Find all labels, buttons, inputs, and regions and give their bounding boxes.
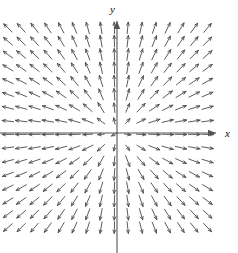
field-arrow (70, 158, 80, 164)
field-arrow (189, 119, 200, 122)
field-arrow (58, 223, 64, 233)
field-arrow (56, 119, 67, 122)
field-arrow (177, 184, 186, 191)
field-arrow (17, 65, 27, 71)
field-arrow (150, 170, 158, 179)
field-arrow (191, 37, 198, 46)
field-arrow (70, 170, 78, 178)
field-arrow (44, 50, 52, 59)
field-arrow (113, 36, 116, 48)
field-arrow (139, 209, 143, 220)
field-arrow (203, 65, 212, 72)
field-arrow (113, 75, 116, 86)
field-arrow (127, 22, 130, 33)
field-arrow (203, 210, 212, 218)
field-arrow (29, 172, 39, 177)
field-arrow (84, 170, 91, 179)
field-arrow (43, 159, 54, 163)
field-arrow (4, 224, 13, 232)
field-arrow (113, 89, 116, 100)
field-arrow (139, 49, 143, 60)
field-arrow (165, 23, 170, 33)
field-arrow (137, 157, 144, 166)
field-arrow (86, 209, 90, 220)
field-arrow (99, 209, 102, 220)
field-arrow (3, 92, 14, 96)
field-arrow (86, 22, 90, 33)
field-arrow (30, 51, 38, 59)
field-arrow (127, 209, 130, 220)
field-arrow (127, 76, 130, 87)
field-arrow (99, 36, 102, 47)
field-arrow (127, 49, 130, 60)
field-arrow (126, 156, 130, 167)
field-arrow (126, 89, 130, 100)
field-arrow (149, 119, 160, 123)
field-arrow (138, 169, 144, 179)
field-arrow (189, 106, 200, 110)
field-arrow (176, 78, 185, 85)
field-arrow (30, 197, 39, 204)
field-arrow (4, 24, 12, 32)
field-arrow (44, 210, 51, 219)
field-arrow (113, 156, 116, 165)
field-arrow (150, 90, 158, 98)
field-arrow (152, 222, 156, 233)
field-arrow (202, 159, 213, 163)
field-arrow (3, 172, 14, 176)
field-arrow (97, 118, 105, 124)
field-arrow (137, 104, 145, 112)
field-arrow (190, 64, 199, 71)
field-arrow (30, 78, 40, 84)
field-arrow (139, 63, 143, 74)
field-arrow (72, 23, 76, 34)
field-arrow (43, 184, 52, 191)
field-arrow (17, 198, 26, 205)
field-arrow (203, 37, 211, 45)
field-arrow (71, 77, 78, 86)
field-arrow (163, 91, 172, 98)
field-arrow (190, 184, 199, 191)
field-arrow (189, 78, 199, 84)
field-arrow (3, 185, 13, 190)
field-arrow (99, 222, 102, 233)
field-arrow (99, 182, 103, 193)
field-arrow (177, 50, 184, 59)
field-arrow (176, 106, 187, 110)
field-arrow (178, 37, 185, 46)
field-arrow (127, 195, 130, 206)
field-arrow (202, 147, 213, 150)
field-arrow (72, 222, 77, 232)
field-arrow (99, 22, 102, 33)
field-arrow (162, 105, 172, 110)
field-arrow (72, 209, 77, 219)
field-arrow (2, 147, 13, 150)
field-arrow (57, 77, 65, 85)
field-arrow (42, 147, 53, 150)
field-arrow (165, 222, 170, 232)
field-arrow (175, 146, 186, 149)
field-arrow (126, 119, 130, 124)
field-arrow (140, 22, 143, 33)
field-arrow (99, 89, 103, 100)
field-arrow (84, 157, 92, 165)
field-arrow (17, 223, 25, 231)
field-arrow (3, 65, 13, 71)
field-arrow (17, 37, 25, 45)
field-arrow (126, 103, 130, 112)
field-arrow (16, 172, 27, 177)
field-arrow (127, 36, 130, 47)
field-arrow (99, 62, 102, 73)
field-arrow (16, 106, 27, 109)
field-arrow (127, 222, 130, 233)
field-arrow (3, 79, 13, 84)
field-arrow (149, 146, 160, 150)
field-arrow (203, 51, 212, 59)
field-arrow (163, 171, 172, 178)
field-arrow (113, 195, 116, 207)
field-arrow (85, 183, 90, 193)
field-arrow (202, 92, 213, 97)
field-arrow (191, 23, 198, 32)
field-arrow (99, 169, 103, 180)
field-arrow (113, 222, 116, 234)
